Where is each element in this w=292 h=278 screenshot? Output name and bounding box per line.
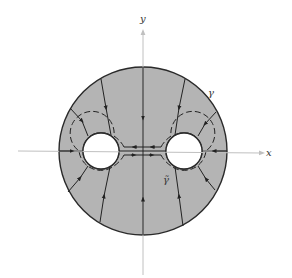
inner-contour-label: γ̃ [163,174,169,185]
right-hole [166,133,202,169]
y-axis-label: y [139,13,146,24]
left-hole [83,133,119,169]
contour-diagram: y x γ γ̃ [0,0,292,278]
outer-contour-label: γ [208,87,214,98]
x-axis-label: x [266,147,272,158]
